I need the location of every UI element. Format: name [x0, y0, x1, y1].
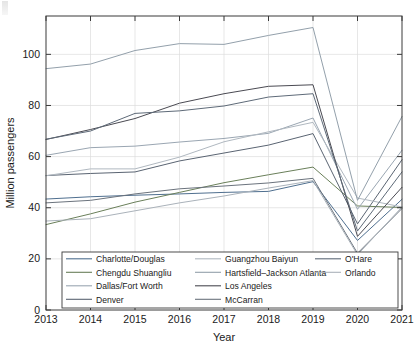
x-tick-label: 2019: [301, 313, 325, 325]
y-tick-label: 40: [28, 201, 40, 213]
x-tick-label: 2021: [390, 313, 414, 325]
x-axis-title: Year: [213, 331, 236, 343]
line-chart-svg: 0204060801002013201420152016201720182019…: [0, 0, 415, 356]
legend-label-orlando: Orlando: [345, 268, 376, 278]
legend-label-charlotte-douglas: Charlotte/Douglas: [96, 254, 165, 264]
page-artifact-mark: [2, 1, 8, 15]
y-axis-title: Million passengers: [4, 117, 16, 209]
y-tick-label: 20: [28, 252, 40, 264]
legend-label-los-angeles: Los Angeles: [225, 281, 272, 291]
chart-figure: 0204060801002013201420152016201720182019…: [0, 0, 415, 356]
y-tick-label: 60: [28, 150, 40, 162]
x-tick-label: 2013: [34, 313, 58, 325]
legend-label-hartsfield-jackson-atlanta: Hartsfield–Jackson Atlanta: [225, 268, 326, 278]
y-tick-label: 100: [22, 48, 40, 60]
legend-label-chengdu-shuangliu: Chengdu Shuangliu: [96, 268, 172, 278]
x-tick-label: 2020: [346, 313, 370, 325]
x-tick-label: 2014: [79, 313, 103, 325]
x-tick-label: 2015: [123, 313, 147, 325]
legend-label-mccarran: McCarran: [225, 295, 263, 305]
legend-label-denver: Denver: [96, 295, 124, 305]
x-tick-label: 2018: [257, 313, 281, 325]
y-tick-label: 80: [28, 99, 40, 111]
x-tick-label: 2016: [168, 313, 192, 325]
legend-label-o-hare: O'Hare: [345, 254, 372, 264]
legend-label-dallas-fort-worth: Dallas/Fort Worth: [96, 281, 163, 291]
x-tick-label: 2017: [212, 313, 236, 325]
legend-label-guangzhou-baiyun: Guangzhou Baiyun: [225, 254, 298, 264]
